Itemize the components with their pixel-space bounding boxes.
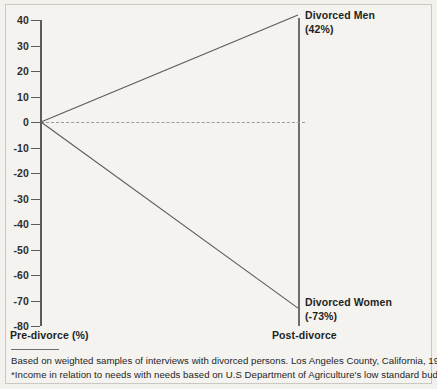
y-tick-mark bbox=[31, 275, 40, 276]
line-divorced-women bbox=[41, 122, 298, 308]
y-tick-mark bbox=[31, 326, 40, 327]
zero-reference-line bbox=[41, 122, 305, 123]
y-tick-label: 40 bbox=[1, 15, 29, 26]
y-tick-label: 10 bbox=[1, 92, 29, 103]
footnote-line-1: Based on weighted samples of interviews … bbox=[11, 354, 426, 368]
y-axis-spine bbox=[40, 20, 42, 326]
footnote-block: Based on weighted samples of interviews … bbox=[11, 354, 426, 382]
y-tick-label: -30 bbox=[1, 194, 29, 205]
chart-figure: 403020100-10-20-30-40-50-60-70-80 Divorc… bbox=[0, 0, 437, 389]
annotation-divorced-men-name: Divorced Men bbox=[305, 8, 375, 22]
y-tick-mark bbox=[31, 122, 40, 123]
y-tick-label: -40 bbox=[1, 219, 29, 230]
footnote-separator-rule bbox=[11, 349, 59, 350]
y-tick-label: -60 bbox=[1, 270, 29, 281]
y-tick-mark bbox=[31, 20, 40, 21]
y-tick-mark bbox=[31, 46, 40, 47]
y-tick-mark bbox=[31, 71, 40, 72]
y-tick-label: 0 bbox=[1, 117, 29, 128]
footnote-line-2: *Income in relation to needs with needs … bbox=[11, 368, 426, 382]
annotation-divorced-women-value: (-73%) bbox=[305, 309, 392, 323]
annotation-divorced-women-name: Divorced Women bbox=[305, 295, 392, 309]
y-tick-mark bbox=[31, 97, 40, 98]
y-tick-label: 20 bbox=[1, 66, 29, 77]
annotation-divorced-men: Divorced Men (42%) bbox=[305, 8, 375, 36]
annotation-divorced-women: Divorced Women (-73%) bbox=[305, 295, 392, 323]
y-tick-label: -70 bbox=[1, 296, 29, 307]
annotation-divorced-men-value: (42%) bbox=[305, 22, 375, 36]
post-divorce-axis-spine bbox=[298, 18, 300, 326]
y-tick-mark bbox=[31, 250, 40, 251]
y-tick-mark bbox=[31, 301, 40, 302]
line-divorced-men bbox=[41, 15, 298, 122]
y-tick-mark bbox=[31, 224, 40, 225]
x-axis-label-pre-divorce: Pre-divorce (%) bbox=[10, 329, 89, 341]
y-tick-label: -50 bbox=[1, 245, 29, 256]
x-axis-label-post-divorce: Post-divorce bbox=[272, 329, 337, 341]
y-tick-label: -10 bbox=[1, 143, 29, 154]
y-tick-label: 30 bbox=[1, 41, 29, 52]
y-tick-mark bbox=[31, 148, 40, 149]
y-tick-mark bbox=[31, 173, 40, 174]
y-tick-mark bbox=[31, 199, 40, 200]
y-tick-label: -20 bbox=[1, 168, 29, 179]
plot-area: 403020100-10-20-30-40-50-60-70-80 Divorc… bbox=[0, 0, 437, 389]
